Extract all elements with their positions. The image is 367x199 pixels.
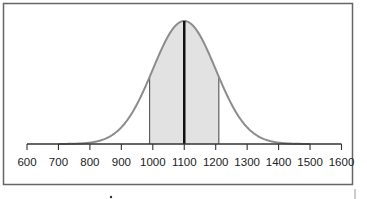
x-axis: 6007008009001000110012001300140015001600 — [17, 144, 354, 168]
x-tick-label: 1400 — [266, 156, 292, 168]
x-tick-label: 1600 — [329, 156, 355, 168]
x-tick-label: 1100 — [172, 156, 197, 168]
x-tick-label: 1200 — [203, 156, 229, 168]
page-mark — [110, 196, 112, 198]
x-tick-label: 900 — [112, 156, 131, 168]
chart-frame: 6007008009001000110012001300140015001600 — [0, 0, 367, 199]
x-tick-label: 700 — [49, 156, 68, 168]
x-tick-label: 600 — [17, 156, 36, 168]
x-tick-label: 1300 — [234, 156, 260, 168]
x-tick-label: 800 — [80, 156, 99, 168]
x-tick-label: 1000 — [140, 156, 166, 168]
x-tick-label: 1500 — [297, 156, 323, 168]
normal-distribution-chart: 6007008009001000110012001300140015001600 — [0, 0, 367, 199]
